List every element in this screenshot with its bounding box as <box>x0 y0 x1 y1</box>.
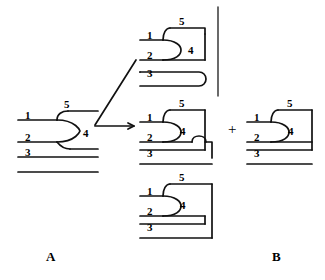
panel-middle-bump <box>192 136 206 142</box>
panel-bottom-label-5: 5 <box>179 172 185 183</box>
panel-a-lower-arc <box>57 142 70 149</box>
panel-a-label-4: 4 <box>83 128 89 139</box>
panel-middle-bump-right <box>206 142 212 158</box>
panel-middle-label-1: 1 <box>147 112 153 123</box>
figure-canvas: 1 2 3 5 4 1 2 3 5 4 1 2 3 5 4 1 2 3 5 4 … <box>0 0 325 280</box>
diagonal-arrow-shaft <box>95 60 136 125</box>
panel-top-box-top <box>170 28 205 34</box>
panel-top-box-tl-arc <box>163 28 170 40</box>
diagram-strokes <box>0 0 325 280</box>
panel-middle-label-5: 5 <box>179 98 185 109</box>
panel-top-label-4: 4 <box>188 45 194 56</box>
panel-middle-label-2: 2 <box>147 132 153 143</box>
panel-b-top-arc <box>271 110 278 122</box>
panel-middle-label-4: 4 <box>180 126 186 137</box>
panel-a-top-arc <box>57 111 68 120</box>
panel-b-label-1: 1 <box>254 112 260 123</box>
panel-b-label-5: 5 <box>287 98 293 109</box>
panel-a-cap <box>57 120 80 142</box>
panel-a-label-3: 3 <box>25 147 31 158</box>
caption-letter-a: A <box>46 250 55 263</box>
panel-a-label-2: 2 <box>25 132 31 143</box>
panel-a-label-1: 1 <box>25 110 31 121</box>
panel-a-label-5: 5 <box>64 99 70 110</box>
panel-b-label-4: 4 <box>288 126 294 137</box>
panel-middle-cap <box>163 122 181 142</box>
panel-top-label-2: 2 <box>147 50 153 61</box>
panel-b-cap <box>271 122 289 142</box>
arrow-strokes <box>95 60 136 129</box>
panel-bottom-label-3: 3 <box>147 222 153 233</box>
panel-middle-top-arc <box>163 110 170 122</box>
panel-b-label-2: 2 <box>254 132 260 143</box>
panel-top-label-3: 3 <box>147 68 153 79</box>
panel-bottom-label-1: 1 <box>147 186 153 197</box>
panel-b-label-3: 3 <box>254 148 260 159</box>
panel-middle-label-3: 3 <box>147 148 153 159</box>
panel-bottom-label-2: 2 <box>147 206 153 217</box>
panel-bottom-cap <box>163 196 181 216</box>
panel-top-label-5: 5 <box>179 16 185 27</box>
caption-letter-b: B <box>272 250 281 263</box>
plus-operator: + <box>228 122 236 137</box>
panel-bottom-label-4: 4 <box>180 200 186 211</box>
panel-top-label-1: 1 <box>147 30 153 41</box>
panel-top-cap <box>163 40 181 60</box>
panel-bottom-top-arc <box>163 184 170 196</box>
